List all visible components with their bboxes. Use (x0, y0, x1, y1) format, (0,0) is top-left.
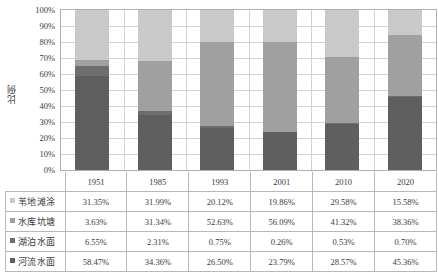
y-axis-title: 比例 (4, 64, 18, 124)
legend-color-swatch-icon (10, 238, 15, 243)
bar-segment[interactable] (200, 42, 234, 126)
table-cell: 52.63% (189, 212, 251, 232)
legend-label: 湖泊水面 (18, 237, 55, 247)
bar-segment[interactable] (138, 10, 172, 61)
legend-entry[interactable]: 水库坑塘 (6, 212, 66, 232)
chart-root: 比例 100%90%80%70%60%50%40%30%20%10%0% 195… (0, 0, 438, 280)
y-tick-label: 80% (39, 37, 55, 47)
table-cell: 31.35% (65, 192, 127, 212)
stacked-bar[interactable] (263, 10, 297, 170)
table-cell: 34.36% (127, 252, 189, 272)
bar-column (124, 10, 187, 170)
table-cell: 26.50% (189, 252, 251, 272)
bar-segment[interactable] (75, 66, 109, 76)
table-cell: 41.32% (313, 212, 375, 232)
bar-segment[interactable] (138, 115, 172, 170)
legend-color-swatch-icon (10, 258, 15, 263)
stacked-bar[interactable] (75, 10, 109, 170)
bar-segment[interactable] (138, 61, 172, 111)
y-axis-tick-labels: 100%90%80%70%60%50%40%30%20%10%0% (18, 9, 58, 171)
legend-label: 河流水面 (18, 257, 55, 267)
table-cell: 0.26% (251, 232, 313, 252)
legend-color-swatch-icon (10, 198, 15, 203)
x-axis-year-label: 1951 (65, 172, 127, 192)
x-axis-year-label: 1985 (127, 172, 189, 192)
table-row: 苇地滩涂31.35%31.99%20.12%19.86%29.58%15.58% (6, 192, 437, 212)
bar-column (249, 10, 312, 170)
legend-entry[interactable]: 湖泊水面 (6, 232, 66, 252)
table-cell: 56.09% (251, 212, 313, 232)
table-cell: 31.99% (127, 192, 189, 212)
bar-segment[interactable] (388, 35, 422, 96)
stacked-bar[interactable] (325, 10, 359, 170)
table-cell: 38.36% (375, 212, 437, 232)
stacked-bar[interactable] (200, 10, 234, 170)
y-tick-label: 100% (35, 5, 55, 15)
table-cell: 19.86% (251, 192, 313, 212)
bar-segment[interactable] (263, 42, 297, 132)
bar-columns (61, 10, 436, 170)
y-tick-label: 20% (39, 133, 55, 143)
table-cell: 31.34% (127, 212, 189, 232)
bar-segment[interactable] (263, 132, 297, 170)
data-table: 195119851993200120102020苇地滩涂31.35%31.99%… (5, 172, 437, 272)
bar-column (311, 10, 374, 170)
x-axis-year-label: 2020 (375, 172, 437, 192)
bar-segment[interactable] (388, 10, 422, 35)
bar-segment[interactable] (388, 97, 422, 170)
bar-column (61, 10, 124, 170)
x-axis-year-label: 2001 (251, 172, 313, 192)
plot-area (60, 9, 437, 171)
x-axis-year-label: 2010 (313, 172, 375, 192)
legend-color-swatch-icon (10, 218, 15, 223)
table-cell: 58.47% (65, 252, 127, 272)
y-tick-label: 70% (39, 53, 55, 63)
legend-label: 水库坑塘 (18, 217, 55, 227)
stacked-bar[interactable] (388, 10, 422, 170)
stacked-bar[interactable] (138, 10, 172, 170)
legend-label: 苇地滩涂 (18, 197, 55, 207)
legend-entry[interactable]: 苇地滩涂 (6, 192, 66, 212)
bar-segment[interactable] (263, 10, 297, 42)
y-tick-label: 40% (39, 101, 55, 111)
legend-entry[interactable]: 河流水面 (6, 252, 66, 272)
y-tick-label: 30% (39, 117, 55, 127)
table-cell: 29.58% (313, 192, 375, 212)
bar-column (186, 10, 249, 170)
table-cell: 0.70% (375, 232, 437, 252)
table-row: 河流水面58.47%34.36%26.50%23.79%28.57%45.36% (6, 252, 437, 272)
table-cell: 20.12% (189, 192, 251, 212)
bar-segment[interactable] (75, 76, 109, 170)
y-tick-label: 90% (39, 21, 55, 31)
table-corner-cell (6, 172, 66, 192)
table-cell: 2.31% (127, 232, 189, 252)
bar-segment[interactable] (75, 10, 109, 60)
table-cell: 6.55% (65, 232, 127, 252)
y-tick-label: 10% (39, 149, 55, 159)
bar-segment[interactable] (325, 124, 359, 170)
table-row: 水库坑塘3.63%31.34%52.63%56.09%41.32%38.36% (6, 212, 437, 232)
table-cell: 28.57% (313, 252, 375, 272)
table-year-row: 195119851993200120102020 (6, 172, 437, 192)
table-cell: 0.75% (189, 232, 251, 252)
bar-column (374, 10, 437, 170)
bar-segment[interactable] (200, 10, 234, 42)
bar-segment[interactable] (200, 128, 234, 170)
table-cell: 0.53% (313, 232, 375, 252)
bar-segment[interactable] (325, 10, 359, 57)
table-cell: 15.58% (375, 192, 437, 212)
y-tick-label: 60% (39, 69, 55, 79)
table-cell: 23.79% (251, 252, 313, 272)
y-tick-label: 50% (39, 85, 55, 95)
table-cell: 45.36% (375, 252, 437, 272)
table-cell: 3.63% (65, 212, 127, 232)
table-row: 湖泊水面6.55%2.31%0.75%0.26%0.53%0.70% (6, 232, 437, 252)
x-axis-year-label: 1993 (189, 172, 251, 192)
bar-segment[interactable] (325, 57, 359, 123)
